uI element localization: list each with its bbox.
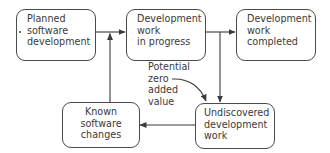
node-development-work-in-progress: Development work in progress (126, 9, 206, 61)
node-label-line: work (204, 130, 274, 142)
node-label-line: development (27, 36, 95, 48)
node-label-line: Known (63, 106, 139, 118)
node-planned-software-development: Planned software development (16, 9, 96, 61)
annotation-line: added (148, 84, 190, 96)
annotation-line: value (148, 96, 190, 108)
node-label-line: in progress (137, 36, 205, 48)
node-known-software-changes: Known software changes (62, 102, 140, 148)
node-label-line: completed (247, 36, 315, 48)
node-label-line: Planned (27, 13, 95, 25)
annotation-potential-zero-added-value: Potential zero added value (148, 61, 190, 107)
node-label-line: Undiscovered (204, 107, 274, 119)
annotation-line: zero (148, 73, 190, 85)
node-label-line: software (27, 25, 95, 37)
node-development-work-completed: Development work completed (236, 9, 316, 61)
node-undiscovered-development-work: Undiscovered development work (195, 103, 275, 149)
node-label-line: development (204, 119, 274, 131)
node-label-line: Development (137, 13, 205, 25)
annotation-line: Potential (148, 61, 190, 73)
node-label-line: Development (247, 13, 315, 25)
node-label-line: work (137, 25, 205, 37)
node-label-line: work (247, 25, 315, 37)
node-label-line: changes (63, 129, 139, 141)
stray-dot-mark (19, 31, 21, 33)
node-label-line: software (63, 118, 139, 130)
